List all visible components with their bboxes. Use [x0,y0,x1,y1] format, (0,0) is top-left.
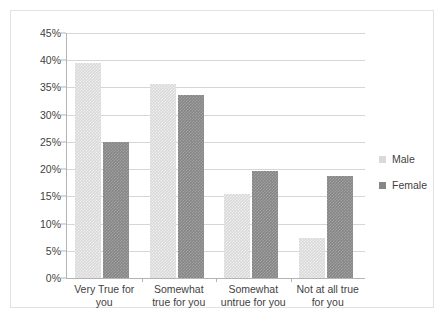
bar-male[interactable] [75,63,101,278]
y-tick-label: 0% [17,273,61,284]
y-tick-label: 15% [17,191,61,202]
y-tick-label: 25% [17,137,61,148]
y-tick-label: 35% [17,82,61,93]
x-category-label: Not at all truefor you [291,283,366,309]
x-axis-separator-tick [142,278,143,282]
y-tick-label: 20% [17,164,61,175]
x-label-line: Very True for [74,283,134,295]
legend-label: Female [392,180,427,191]
y-axis: 0%5%10%15%20%25%30%35%40%45% [11,33,61,278]
x-category-label: Very True foryou [67,283,142,309]
chart-frame: 0%5%10%15%20%25%30%35%40%45% Very True f… [10,10,434,308]
legend-swatch-male [379,156,386,163]
bar-female[interactable] [252,171,278,278]
y-tick-label: 5% [17,246,61,257]
x-category-label: Somewhattrue for you [142,283,217,309]
bar-male[interactable] [150,84,176,278]
x-label-line: Somewhat [154,283,204,295]
x-label-line: for you [312,296,344,308]
bar-group [67,33,142,278]
legend-item-female[interactable]: Female [379,179,439,191]
legend-label: Male [392,154,415,165]
bar-male[interactable] [224,194,250,278]
bar-female[interactable] [178,95,204,278]
x-axis-labels: Very True foryouSomewhattrue for youSome… [67,283,365,323]
x-axis-separator-tick [216,278,217,282]
bar-female[interactable] [103,142,129,278]
legend-item-male[interactable]: Male [379,153,439,165]
bar-group [142,33,217,278]
x-category-label: Somewhatuntrue for you [216,283,291,309]
x-label-line: Not at all true [297,283,359,295]
plot-area [67,33,365,278]
x-axis-separator-tick [291,278,292,282]
bar-female[interactable] [327,176,353,278]
x-label-line: untrue for you [221,296,286,308]
bar-group [216,33,291,278]
y-tick-label: 30% [17,109,61,120]
x-label-line: Somewhat [228,283,278,295]
x-label-line: true for you [152,296,205,308]
chart-legend: MaleFemale [379,153,439,205]
x-label-line: you [96,296,113,308]
bar-male[interactable] [299,238,325,278]
bar-group [291,33,366,278]
legend-swatch-female [379,182,386,189]
y-tick-label: 45% [17,28,61,39]
y-tick-label: 40% [17,55,61,66]
y-tick-label: 10% [17,218,61,229]
